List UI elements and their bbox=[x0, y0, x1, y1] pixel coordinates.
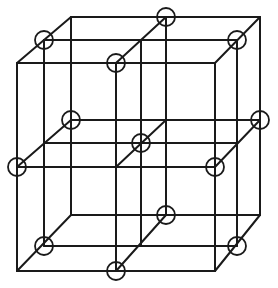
lattice-diagram bbox=[0, 0, 278, 288]
lattice-edges bbox=[17, 17, 260, 271]
cubic-lattice-figure bbox=[0, 0, 278, 288]
